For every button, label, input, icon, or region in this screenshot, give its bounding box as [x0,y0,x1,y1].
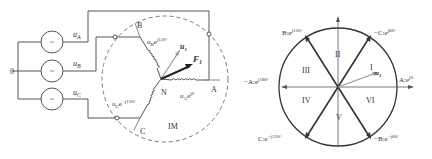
f1-label: F1 [192,54,202,65]
u1-label: u1 [180,42,187,52]
circuit-diagram [12,11,228,142]
motor-label: IM [168,122,178,131]
terminal-b [113,35,117,39]
terminal-c [115,116,119,120]
sector-6: VI [366,96,375,105]
neutral-label: 0 [10,67,14,76]
winding-c-label: uCe−j120° [112,99,136,109]
source-b-symbol: ~ [50,67,55,76]
axis-label-neg-a: −A:ej180° [244,77,269,86]
sector-2: II [335,50,341,59]
terminal-a-label: A [211,85,217,94]
star-point-label: N [161,88,167,97]
vector-diagram-labels: I II III IV V VI u1 A:ej0 −C:ej60° B:ej1… [244,28,413,143]
terminal-c-label: C [140,127,145,136]
axis-label-b: B:ej120° [282,28,303,37]
source-c-label: uC [73,88,82,98]
source-c-symbol: ~ [50,95,55,104]
winding-b-label: uBej120° [147,37,168,47]
source-a-label: uA [73,30,81,40]
winding-a-label: uAej0 [180,91,195,101]
diagram-canvas: 0 ~ ~ ~ uA uB uC B C A N IM uBej120° uCe… [0,0,432,159]
u1-space-vector [338,73,376,87]
terminal-b-label: B [137,21,142,30]
sector-4: IV [302,96,311,105]
axis-label-a: A:ej0 [399,75,413,84]
sector-3: III [302,66,310,75]
terminal-a [207,32,211,36]
source-a-symbol: ~ [50,38,55,47]
axis-label-neg-c: −C:ej60° [374,28,396,37]
vector-diagram [279,16,414,146]
sector-1: I [370,63,373,72]
axis-label-neg-b: −B:e−j60° [374,134,399,143]
sector-5: V [336,113,342,122]
source-b-label: uB [73,59,81,69]
axis-label-c: C:e−j120° [258,134,281,143]
u1-space-label: u1 [375,69,381,78]
